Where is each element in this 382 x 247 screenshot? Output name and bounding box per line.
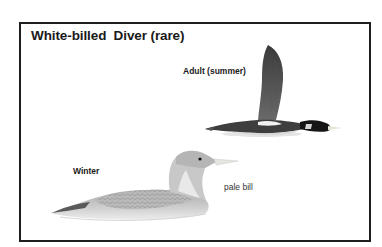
bird-illustrations [0,0,382,247]
winter-swimming-diver-illustration [50,151,238,221]
adult-flying-diver-illustration [205,45,342,137]
